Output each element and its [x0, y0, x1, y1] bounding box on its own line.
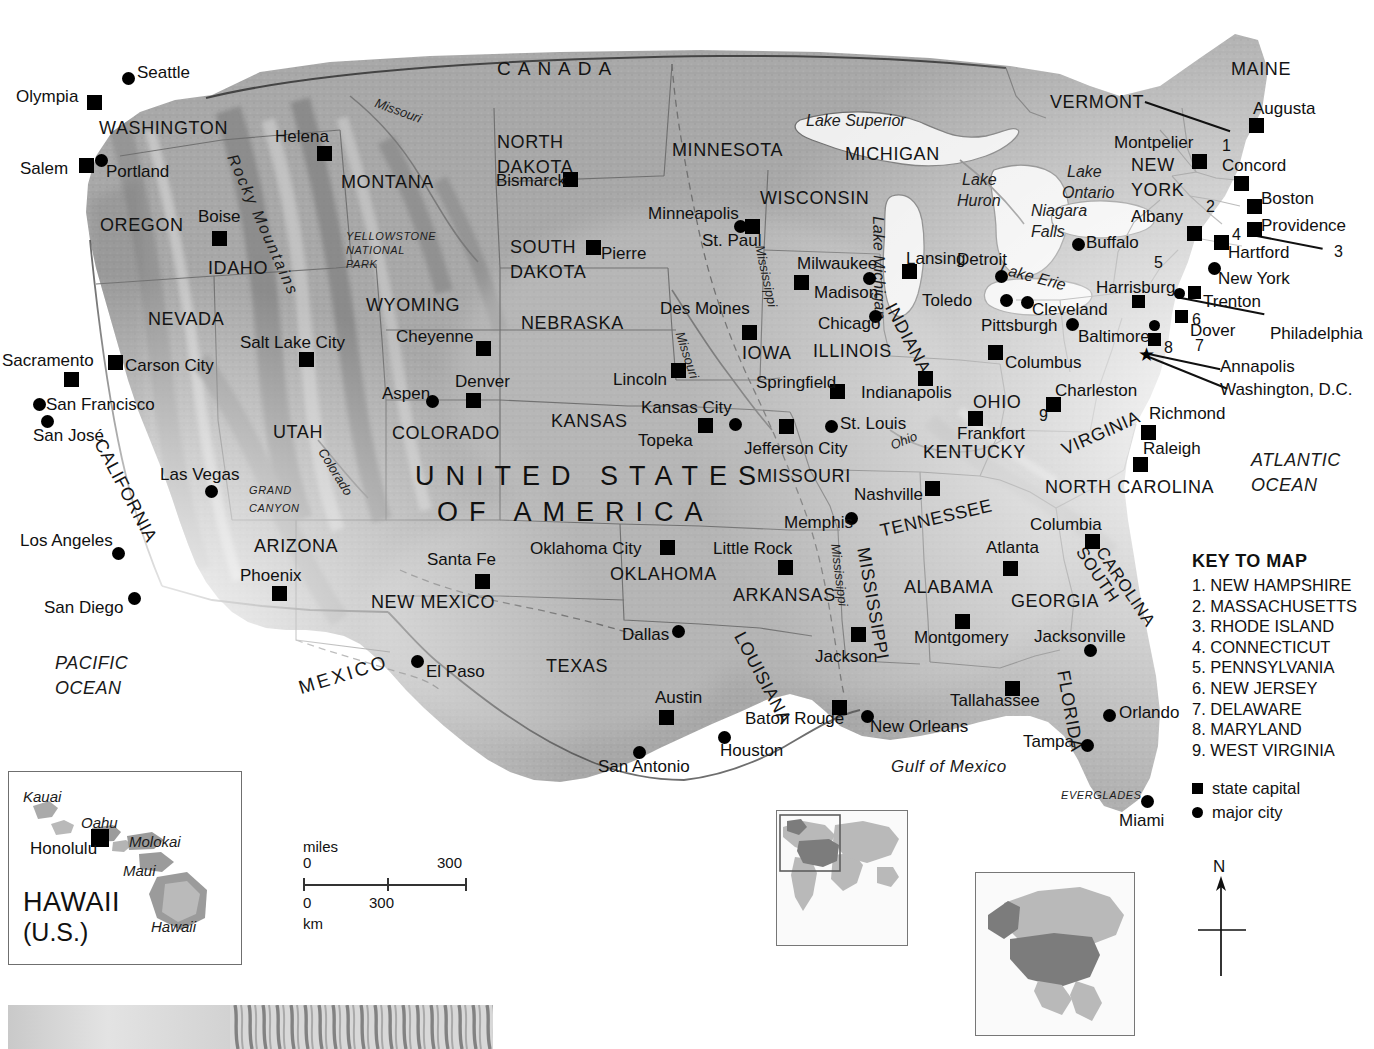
- key-item-8: 8. MARYLAND: [1192, 719, 1374, 740]
- city-marker-st-louis[interactable]: [825, 420, 838, 433]
- capital-marker-salem[interactable]: [79, 158, 94, 173]
- capital-marker-olympia[interactable]: [87, 95, 102, 110]
- key-item-9: 9. WEST VIRGINIA: [1192, 740, 1374, 761]
- city-label-minneapolis: Minneapolis: [648, 205, 739, 222]
- city-label-philadelphia: Philadelphia: [1270, 325, 1363, 342]
- capital-marker-jefferson-city[interactable]: [779, 419, 794, 434]
- map-title-line2: OF AMERICA: [437, 499, 714, 526]
- capital-marker-montpelier[interactable]: [1192, 154, 1207, 169]
- city-label-seattle: Seattle: [137, 64, 190, 81]
- state-label-kansas: KANSAS: [551, 412, 628, 430]
- city-marker-los-angeles[interactable]: [112, 547, 125, 560]
- state-label-nevada: NEVADA: [148, 310, 224, 328]
- capital-label-santa-fe: Santa Fe: [427, 551, 496, 568]
- city-label-toledo: Toledo: [922, 292, 972, 309]
- capital-label-frankfort: Frankfort: [957, 425, 1025, 442]
- capital-marker-washington-dc-star[interactable]: ★: [1138, 345, 1155, 364]
- city-marker-seattle[interactable]: [122, 72, 135, 85]
- capital-marker-santa-fe[interactable]: [475, 574, 490, 589]
- capital-label-albany: Albany: [1131, 208, 1183, 225]
- capital-marker-boston[interactable]: [1247, 199, 1262, 214]
- capital-label-indianapolis: Indianapolis: [861, 384, 952, 401]
- capital-marker-salt-lake-city[interactable]: [299, 352, 314, 367]
- capital-marker-albany[interactable]: [1187, 226, 1202, 241]
- city-marker-milwaukee[interactable]: [863, 272, 876, 285]
- hawaii-island-label-hawaii: Hawaii: [151, 919, 196, 934]
- label-lake-superior: Lake Superior: [806, 113, 906, 129]
- capital-marker-raleigh[interactable]: [1133, 457, 1148, 472]
- label-atlantic-ocean-line2: OCEAN: [1251, 476, 1318, 494]
- capital-marker-oklahoma-city[interactable]: [660, 540, 675, 555]
- capital-marker-austin[interactable]: [659, 710, 674, 725]
- scale-bar: miles 0 300 0 300 km: [303, 838, 473, 932]
- capital-label-carson-city: Carson City: [125, 357, 214, 374]
- capital-marker-dover[interactable]: [1175, 310, 1188, 323]
- capital-marker-nashville[interactable]: [925, 481, 940, 496]
- city-marker-buffalo[interactable]: [1072, 238, 1085, 251]
- capital-marker-hartford[interactable]: [1214, 235, 1229, 250]
- city-marker-dallas[interactable]: [672, 625, 685, 638]
- map-number-2: 2: [1206, 199, 1215, 215]
- capital-label-columbus: Columbus: [1005, 354, 1082, 371]
- scale-miles-max: 300: [437, 855, 462, 870]
- city-marker-detroit[interactable]: [995, 270, 1008, 283]
- scale-bar-graphic: [303, 878, 473, 891]
- capital-label-raleigh: Raleigh: [1143, 440, 1201, 457]
- city-marker-philadelphia[interactable]: [1174, 288, 1185, 299]
- world-map-shape: [777, 811, 905, 943]
- state-label-minnesota: MINNESOTA: [672, 141, 783, 159]
- capital-marker-little-rock[interactable]: [778, 560, 793, 575]
- capital-marker-augusta[interactable]: [1249, 118, 1264, 133]
- capital-marker-topeka[interactable]: [698, 418, 713, 433]
- label-grand-canyon-line1: GRAND: [249, 485, 292, 496]
- capital-marker-boise[interactable]: [212, 231, 227, 246]
- state-label-missouri: MISSOURI: [757, 467, 851, 485]
- capital-marker-columbia[interactable]: [1085, 534, 1100, 549]
- city-marker-miami[interactable]: [1141, 795, 1154, 808]
- legend-label-major-city: major city: [1212, 800, 1283, 824]
- capital-marker-jackson[interactable]: [851, 627, 866, 642]
- city-marker-toledo[interactable]: [1000, 294, 1013, 307]
- capital-marker-carson-city[interactable]: [108, 355, 123, 370]
- capital-marker-annapolis[interactable]: [1148, 333, 1161, 346]
- capital-marker-trenton[interactable]: [1188, 286, 1201, 299]
- compass-north-label: N: [1213, 858, 1225, 875]
- hawaii-island-label-maui: Maui: [123, 863, 156, 878]
- city-marker-san-diego[interactable]: [128, 592, 141, 605]
- city-label-baltimore: Baltimore: [1078, 328, 1150, 345]
- city-marker-baltimore[interactable]: [1149, 320, 1160, 331]
- capital-marker-cheyenne[interactable]: [476, 341, 491, 356]
- capital-marker-atlanta[interactable]: [1003, 561, 1018, 576]
- capital-marker-phoenix[interactable]: [272, 586, 287, 601]
- capital-marker-madison[interactable]: [794, 275, 809, 290]
- capital-label-salt-lake-city: Salt Lake City: [240, 334, 345, 351]
- city-label-memphis: Memphis: [784, 514, 853, 531]
- capital-marker-richmond[interactable]: [1141, 425, 1156, 440]
- city-label-portland: Portland: [106, 163, 169, 180]
- capital-marker-sacramento[interactable]: [64, 372, 79, 387]
- city-marker-tampa[interactable]: [1081, 739, 1094, 752]
- state-label-kentucky: KENTUCKY: [923, 443, 1026, 461]
- capital-marker-montgomery[interactable]: [955, 614, 970, 629]
- city-marker-kansas-city[interactable]: [729, 418, 742, 431]
- city-marker-orlando[interactable]: [1103, 709, 1116, 722]
- city-marker-san-francisco[interactable]: [33, 398, 46, 411]
- city-label-san-francisco: San Francisco: [46, 396, 155, 413]
- capital-marker-pierre[interactable]: [586, 240, 601, 255]
- capital-marker-columbus[interactable]: [988, 345, 1003, 360]
- capital-marker-concord[interactable]: [1234, 176, 1249, 191]
- capital-marker-providence[interactable]: [1247, 222, 1262, 237]
- city-marker-el-paso[interactable]: [411, 655, 424, 668]
- capital-label-atlanta: Atlanta: [986, 539, 1039, 556]
- capital-marker-denver[interactable]: [466, 393, 481, 408]
- city-label-san-diego: San Diego: [44, 599, 123, 616]
- capital-marker-helena[interactable]: [317, 146, 332, 161]
- city-marker-las-vegas[interactable]: [205, 485, 218, 498]
- state-label-north-carolina: NORTH CAROLINA: [1045, 478, 1214, 496]
- city-label-st-louis: St. Louis: [840, 415, 906, 432]
- label-niagara-falls-line1: Niagara: [1031, 203, 1087, 219]
- label-pacific-ocean-line1: PACIFIC: [55, 654, 128, 672]
- capital-marker-lincoln[interactable]: [671, 363, 686, 378]
- capital-label-sacramento: Sacramento: [2, 352, 94, 369]
- capital-marker-des-moines[interactable]: [742, 325, 757, 340]
